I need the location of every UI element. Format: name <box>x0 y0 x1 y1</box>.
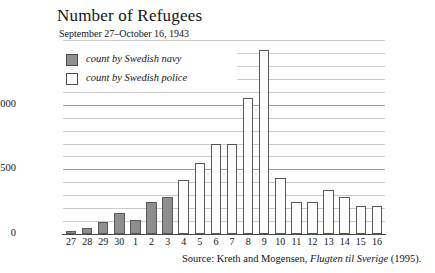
legend-label-navy: count by Swedish navy <box>86 53 181 64</box>
bar-8 <box>243 98 254 234</box>
bar-15 <box>356 206 367 235</box>
bar-28 <box>82 228 93 235</box>
source-prefix: Source: Kreth and Mogensen, <box>182 253 307 264</box>
x-axis-tick-label: 1 <box>127 236 143 247</box>
x-axis-tick-label: 6 <box>208 236 224 247</box>
legend-swatch-navy-icon <box>66 54 78 66</box>
refugees-bar-chart-figure: Number of Refugees September 27–October … <box>0 0 435 273</box>
x-axis-line <box>62 234 386 235</box>
source-work-title: Flugten til Sverige <box>310 253 388 264</box>
bar-16 <box>372 206 383 235</box>
x-axis-tick-label: 16 <box>369 236 385 247</box>
bar-7 <box>227 144 238 235</box>
x-axis-tick-label: 4 <box>176 236 192 247</box>
legend: count by Swedish navy count by Swedish p… <box>57 52 237 88</box>
bar-2 <box>146 202 157 234</box>
legend-swatch-police-icon <box>66 73 78 85</box>
legend-label-police: count by Swedish police <box>86 72 187 83</box>
y-axis-tick-label: 500 <box>0 162 16 173</box>
bar-6 <box>211 144 222 235</box>
x-axis-tick-label: 30 <box>111 236 127 247</box>
x-axis-tick-label: 11 <box>288 236 304 247</box>
source-suffix: (1995). <box>391 253 422 264</box>
bar-1 <box>130 220 141 234</box>
x-axis-tick-label: 15 <box>353 236 369 247</box>
y-axis-tick-label: 0 <box>0 227 16 238</box>
x-axis-tick-label: 13 <box>321 236 337 247</box>
bar-3 <box>162 197 173 235</box>
bar-9 <box>259 50 270 234</box>
chart-subtitle: September 27–October 16, 1943 <box>59 28 189 39</box>
x-axis-tick-label: 8 <box>240 236 256 247</box>
bar-13 <box>323 190 334 234</box>
x-axis-tick-label: 28 <box>79 236 95 247</box>
x-axis-tick-label: 9 <box>256 236 272 247</box>
x-axis-tick-label: 2 <box>144 236 160 247</box>
bar-29 <box>98 222 109 234</box>
y-axis-tick-label: 1000 <box>0 98 16 109</box>
bar-14 <box>339 197 350 235</box>
x-axis-tick-label: 5 <box>192 236 208 247</box>
x-axis-tick-label: 7 <box>224 236 240 247</box>
legend-item-police: count by Swedish police <box>57 71 237 88</box>
source-note: Source: Kreth and Mogensen, Flugten til … <box>182 253 421 264</box>
x-axis-tick-label: 14 <box>337 236 353 247</box>
chart-title: Number of Refugees <box>57 6 202 26</box>
bar-5 <box>195 163 206 234</box>
bar-10 <box>275 178 286 234</box>
x-axis-tick-label: 12 <box>305 236 321 247</box>
bar-30 <box>114 213 125 234</box>
x-axis-tick-label: 3 <box>160 236 176 247</box>
x-axis-tick-label: 29 <box>95 236 111 247</box>
bar-11 <box>291 202 302 234</box>
bar-4 <box>178 180 189 234</box>
x-axis-tick-label: 27 <box>63 236 79 247</box>
bar-12 <box>307 202 318 234</box>
legend-item-navy: count by Swedish navy <box>57 52 237 69</box>
bar-27 <box>66 231 77 234</box>
x-axis-tick-label: 10 <box>272 236 288 247</box>
